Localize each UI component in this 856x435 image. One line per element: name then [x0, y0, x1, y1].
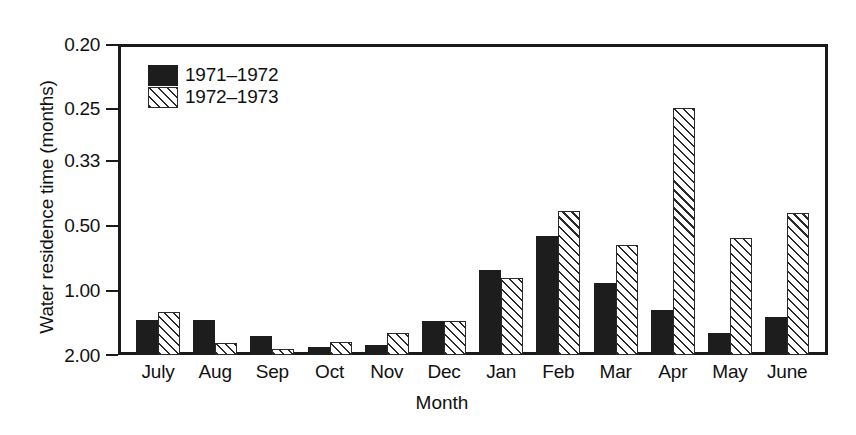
y-axis-title: Water residence time (months): [36, 42, 58, 372]
legend-swatch-solid-icon: [148, 65, 178, 86]
legend-label-0: 1971–1972: [185, 64, 278, 86]
y-tick-mark-1: [106, 108, 118, 110]
x-tick-label-nov: Nov: [359, 361, 415, 383]
bar-solid-sep: [250, 336, 272, 355]
y-tick-mark-4: [106, 290, 118, 292]
bar-hatch-june: [787, 213, 809, 355]
y-tick-label-3: 0.50: [24, 215, 100, 237]
x-tick-label-sep: Sep: [244, 361, 300, 383]
bar-hatch-apr: [673, 108, 695, 355]
x-tick-label-apr: Apr: [645, 361, 701, 383]
legend-item-0: 1971–1972: [148, 64, 278, 86]
legend-label-1: 1972–1973: [185, 86, 278, 108]
x-axis-title: Month: [0, 392, 856, 414]
bar-hatch-july: [158, 312, 180, 355]
y-tick-mark-0: [106, 44, 118, 46]
legend-item-1: 1972–1973: [148, 86, 278, 108]
bar-hatch-aug: [215, 343, 237, 355]
bar-hatch-nov: [387, 333, 409, 355]
bar-solid-june: [765, 317, 787, 355]
bar-solid-jan: [479, 270, 501, 355]
chart-figure: Water residence time (months) 0.20 0.25 …: [0, 0, 856, 435]
chart-legend: 1971–1972 1972–1973: [148, 64, 278, 108]
bar-hatch-sep: [272, 349, 294, 355]
bar-solid-may: [708, 333, 730, 355]
x-tick-label-june: June: [759, 361, 815, 383]
bar-solid-aug: [193, 320, 215, 355]
y-tick-mark-3: [106, 225, 118, 227]
y-tick-label-0: 0.20: [24, 34, 100, 56]
bar-hatch-may: [730, 238, 752, 355]
y-tick-mark-5: [106, 354, 118, 356]
x-tick-label-oct: Oct: [302, 361, 358, 383]
y-tick-label-2: 0.33: [24, 150, 100, 172]
y-tick-label-5: 2.00: [24, 345, 100, 367]
x-tick-label-feb: Feb: [530, 361, 586, 383]
bar-hatch-jan: [501, 278, 523, 355]
x-tick-label-aug: Aug: [187, 361, 243, 383]
y-tick-label-4: 1.00: [24, 280, 100, 302]
y-tick-mark-2: [106, 160, 118, 162]
bar-solid-mar: [594, 283, 616, 355]
bar-solid-oct: [308, 347, 330, 355]
x-tick-label-july: July: [130, 361, 186, 383]
x-tick-label-jan: Jan: [473, 361, 529, 383]
bar-solid-july: [136, 320, 158, 355]
bar-solid-dec: [422, 321, 444, 355]
legend-swatch-hatch-icon: [148, 87, 178, 108]
x-tick-label-mar: Mar: [588, 361, 644, 383]
bar-hatch-mar: [616, 245, 638, 355]
y-tick-label-1: 0.25: [24, 98, 100, 120]
x-tick-label-may: May: [702, 361, 758, 383]
bar-solid-apr: [651, 310, 673, 355]
bar-hatch-feb: [558, 211, 580, 355]
x-axis-title-text: Month: [416, 392, 469, 414]
bar-hatch-dec: [444, 321, 466, 355]
bar-solid-nov: [365, 345, 387, 355]
bar-hatch-oct: [330, 342, 352, 355]
x-tick-label-dec: Dec: [416, 361, 472, 383]
bar-solid-feb: [536, 236, 558, 355]
